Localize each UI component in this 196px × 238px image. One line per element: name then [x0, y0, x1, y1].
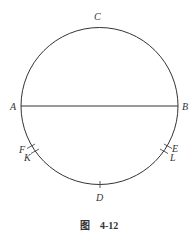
label-b: B: [182, 101, 188, 112]
label-c: C: [94, 11, 101, 22]
label-k: K: [23, 152, 32, 163]
label-d: D: [95, 192, 104, 203]
caption-prefix: 图: [80, 220, 90, 231]
label-l: L: [169, 152, 176, 163]
label-a: A: [9, 101, 17, 112]
tick-k: [31, 149, 39, 154]
caption-number: 4-12: [100, 220, 118, 231]
circle-diagram: C A B F K E L D 图 4-12: [0, 0, 196, 238]
tick-l: [160, 149, 168, 154]
